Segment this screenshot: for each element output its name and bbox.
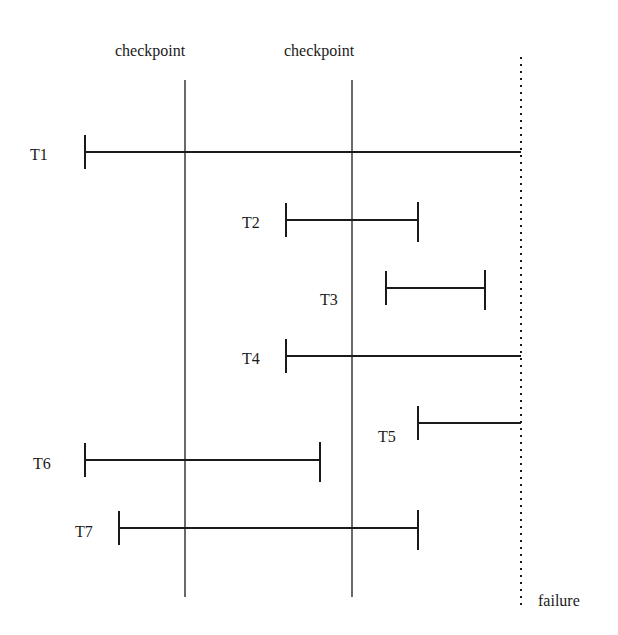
failure-line: failure (521, 57, 580, 609)
transaction-t3: T3 (320, 270, 485, 310)
transaction-label: T5 (378, 428, 396, 445)
transaction-t4: T4 (242, 339, 521, 373)
failure-label: failure (538, 592, 580, 609)
transaction-label: T1 (30, 146, 48, 163)
checkpoint-label: checkpoint (115, 42, 186, 60)
transaction-t6: T6 (33, 442, 320, 482)
transaction-t1: T1 (30, 135, 521, 169)
transaction-t7: T7 (75, 510, 418, 550)
transaction-label: T4 (242, 350, 260, 367)
transaction-label: T2 (242, 214, 260, 231)
checkpoint-recovery-diagram: checkpointcheckpoint failure T1T2T3T4T5T… (0, 0, 618, 635)
checkpoint-lines: checkpointcheckpoint (115, 42, 355, 597)
transaction-label: T3 (320, 291, 338, 308)
transaction-label: T7 (75, 523, 93, 540)
transaction-bars: T1T2T3T4T5T6T7 (30, 135, 521, 550)
transaction-t2: T2 (242, 202, 418, 242)
checkpoint-label: checkpoint (284, 42, 355, 60)
transaction-t5: T5 (378, 406, 521, 445)
transaction-label: T6 (33, 455, 51, 472)
